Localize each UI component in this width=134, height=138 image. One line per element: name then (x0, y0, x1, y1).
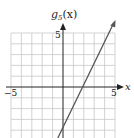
line-arrow-icon (110, 20, 115, 27)
x-axis-arrow-icon (117, 84, 124, 90)
x-axis-label: x (125, 81, 131, 92)
y-axis-label: g5(x) (51, 8, 77, 22)
y-tick-5: 5 (55, 30, 61, 40)
x-tick-5: 5 (111, 88, 117, 98)
y-axis-arrow-icon (60, 23, 66, 30)
function-graph: g5(x) 5 −5 5 x (0, 0, 134, 138)
x-tick-neg5: −5 (4, 88, 18, 98)
